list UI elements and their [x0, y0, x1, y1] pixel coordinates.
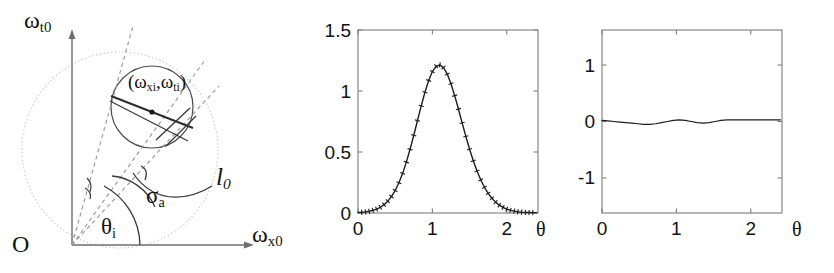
x-tick-label: 0 [353, 218, 364, 239]
theta-angle-label: θi [101, 215, 116, 240]
series-line-residual [602, 120, 781, 125]
series-line-gaussian [358, 65, 537, 213]
curve-tick-marker [452, 95, 457, 96]
geometry-diagram-panel: ωt0 ωx0 O (ωxi,ωti) θi σa l0 [0, 0, 300, 273]
sigma-angle-label: σa [146, 184, 165, 209]
sample-point-label: (ωxi,ωti) [128, 72, 186, 94]
curve-tick-marker [372, 208, 373, 213]
curve-tick-marker [456, 108, 461, 109]
curve-tick-marker [460, 122, 465, 123]
magnitude-plot-svg: 01200.511.5 [300, 0, 570, 273]
x-tick-label: 2 [501, 218, 512, 239]
curve-tick-marker [422, 91, 427, 92]
y-tick-label: 1 [340, 81, 351, 102]
origin-label: O [12, 232, 29, 256]
y-tick-label: 0.5 [325, 142, 351, 163]
x-tick-label: 2 [745, 218, 756, 239]
y-tick-label: 1 [584, 55, 595, 76]
magnitude-plot-panel: 01200.511.5 θ [300, 0, 570, 273]
y-tick-label: 0 [340, 203, 351, 224]
axis-y-label: ωt0 [24, 8, 51, 35]
line-l0-label: l0 [216, 164, 231, 192]
y-tick-label: -1 [578, 167, 595, 188]
curve-tick-marker [518, 209, 519, 214]
curve-tick-marker [439, 62, 440, 67]
magnitude-plot-xaxis-name: θ [536, 218, 546, 241]
y-tick-label: 0 [584, 111, 595, 132]
curve-tick-marker [467, 148, 472, 150]
curve-tick-marker [415, 120, 420, 121]
l0-leader-curve [133, 173, 212, 197]
curve-tick-marker [411, 135, 416, 136]
figure-root: ωt0 ωx0 O (ωxi,ωti) θi σa l0 01200.511.5… [0, 0, 834, 273]
axis-x-label: ωx0 [252, 222, 283, 249]
sample-point-dot [149, 109, 154, 114]
plot-frame [358, 30, 538, 213]
curve-tick-marker [365, 209, 366, 214]
axis-y-arrowhead [69, 29, 76, 39]
phase-plot-panel: 012-101 θ [570, 0, 834, 273]
curve-tick-marker [419, 105, 424, 106]
curve-tick-marker [408, 149, 413, 150]
chord-cross-segment-2 [166, 116, 196, 146]
x-tick-label: 1 [427, 218, 438, 239]
phase-plot-xaxis-name: θ [792, 218, 802, 241]
angle-span-marker-mid [141, 166, 146, 180]
curve-tick-marker [510, 208, 511, 213]
curve-tick-marker [404, 161, 409, 163]
y-tick-label: 1.5 [325, 20, 351, 41]
curve-tick-marker [463, 136, 468, 137]
x-tick-label: 1 [671, 218, 682, 239]
x-tick-label: 0 [597, 218, 608, 239]
